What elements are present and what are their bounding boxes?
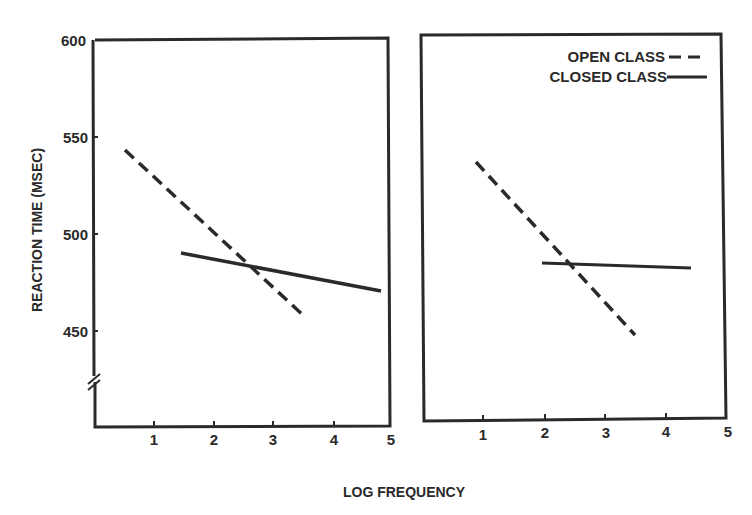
left-closed-class-line bbox=[181, 253, 381, 291]
y-tick-label: 450 bbox=[63, 323, 88, 340]
legend: OPEN CLASS CLOSED CLASS bbox=[549, 48, 707, 85]
right-panel: 1 2 3 4 5 OPEN CLASS CLOSED CLASS bbox=[421, 34, 732, 443]
x-tick-label: 2 bbox=[210, 431, 218, 448]
y-axis-title: REACTION TIME (MSEC) bbox=[29, 148, 45, 312]
legend-closed-class-label: CLOSED CLASS bbox=[549, 68, 667, 85]
x-tick-label: 1 bbox=[150, 431, 158, 448]
x-tick-label: 1 bbox=[479, 426, 487, 443]
x-tick-label: 3 bbox=[602, 424, 610, 441]
y-tick-label: 550 bbox=[63, 129, 88, 146]
y-tick-label: 500 bbox=[63, 226, 88, 243]
x-axis-title: LOG FREQUENCY bbox=[343, 484, 466, 500]
x-tick-label: 5 bbox=[724, 423, 732, 440]
right-closed-class-line bbox=[542, 263, 691, 268]
x-tick-label: 3 bbox=[269, 431, 277, 448]
right-panel-frame bbox=[421, 34, 726, 421]
x-tick-label: 2 bbox=[541, 424, 549, 441]
right-open-class-line bbox=[476, 162, 635, 335]
left-open-class-line bbox=[125, 150, 304, 316]
y-tick-label: 600 bbox=[61, 32, 86, 49]
x-tick-label: 5 bbox=[387, 431, 395, 448]
left-panel-frame bbox=[93, 38, 390, 427]
figure: 600 550 500 450 1 2 3 4 5 1 2 bbox=[0, 0, 752, 515]
left-panel: 600 550 500 450 1 2 3 4 5 bbox=[61, 32, 395, 448]
legend-open-class-label: OPEN CLASS bbox=[567, 48, 665, 65]
x-tick-label: 4 bbox=[330, 431, 339, 448]
x-tick-label: 4 bbox=[662, 423, 671, 440]
